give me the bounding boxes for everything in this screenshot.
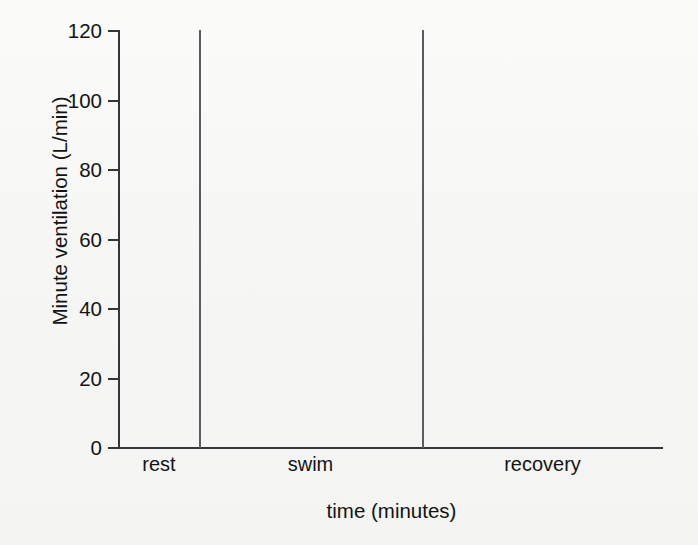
segment-divider-swim-recovery — [422, 30, 424, 448]
y-tick-40 — [108, 308, 118, 310]
y-tick-20 — [108, 378, 118, 380]
chart-figure: 120 100 80 60 40 20 0 rest swim recovery… — [0, 0, 698, 545]
x-axis-title: time (minutes) — [119, 500, 664, 522]
x-category-label-rest: rest — [119, 453, 199, 475]
y-axis-title: Minute ventilation (L/min) — [49, 51, 71, 371]
y-tick-80 — [108, 169, 118, 171]
y-tick-label-20: 20 — [42, 369, 102, 389]
y-tick-0 — [108, 447, 118, 449]
x-category-label-swim: swim — [199, 453, 422, 475]
segment-divider-rest-swim — [199, 30, 201, 448]
plot-area — [120, 31, 663, 448]
x-category-label-recovery: recovery — [422, 453, 663, 475]
y-tick-label-120: 120 — [42, 21, 102, 41]
y-tick-label-0: 0 — [42, 438, 102, 458]
y-axis-line — [118, 30, 120, 449]
y-tick-100 — [108, 100, 118, 102]
y-tick-60 — [108, 239, 118, 241]
y-tick-120 — [108, 30, 118, 32]
